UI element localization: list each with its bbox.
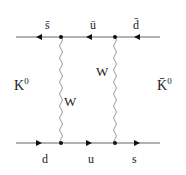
arrow-left-icon (36, 34, 42, 40)
label-k0-bar: K̄0 (157, 76, 172, 93)
w-boson-right (114, 37, 117, 143)
label-k0: K0 (14, 76, 29, 93)
vertex-dot (59, 141, 63, 145)
label-d: d (42, 152, 48, 166)
vertex-dot (113, 35, 117, 39)
w-boson-left (60, 37, 63, 143)
label-u: u (88, 152, 94, 166)
arrow-right-icon (36, 140, 42, 146)
label-d-bar: d̄ (133, 18, 139, 32)
label-w-right: W (96, 64, 109, 79)
feynman-diagram: s̄ ū d̄ d u s W W K0 K̄0 (0, 0, 186, 175)
arrow-left-icon (86, 34, 92, 40)
label-u-bar: ū (90, 18, 96, 32)
arrow-left-icon (134, 34, 140, 40)
vertex-dot (59, 35, 63, 39)
arrow-right-icon (134, 140, 140, 146)
label-w-left: W (64, 94, 77, 109)
diagram-svg: s̄ ū d̄ d u s W W K0 K̄0 (0, 0, 186, 175)
arrow-right-icon (86, 140, 92, 146)
vertex-dot (113, 141, 117, 145)
label-s-bar: s̄ (45, 18, 50, 32)
label-s: s (132, 152, 137, 166)
